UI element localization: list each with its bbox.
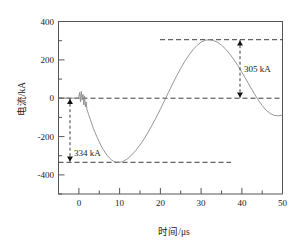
- chart-figure: 400 200 0 -200 -400 0 10 20 30 40 50 334…: [0, 0, 298, 247]
- arrow-up-head-icon: [67, 99, 73, 104]
- x-tick-label: 40: [237, 198, 247, 208]
- chart-canvas: 400 200 0 -200 -400 0 10 20 30 40 50 334…: [0, 0, 298, 247]
- y-axis-title: 电流/kA: [14, 69, 28, 129]
- x-tick-labels: 0 10 20 30 40 50: [77, 198, 288, 208]
- y-tick-label: -200: [38, 132, 55, 142]
- current-waveform-curve: [59, 40, 283, 162]
- peak-measure-label: 305 kA: [244, 64, 271, 74]
- arrow-down-head-icon: [237, 92, 243, 97]
- x-tick-label: 20: [156, 198, 166, 208]
- x-tick-label: 30: [197, 198, 207, 208]
- y-tick-label: 200: [41, 55, 55, 65]
- y-tick-label: -400: [38, 170, 55, 180]
- peak-measure-annotation: 305 kA: [237, 40, 271, 98]
- x-tick-label: 10: [115, 198, 125, 208]
- x-tick-label: 50: [278, 198, 288, 208]
- trough-measure-label: 334 kA: [74, 148, 101, 158]
- arrow-up-head-icon: [237, 41, 243, 46]
- plot-frame: [59, 22, 283, 195]
- y-tick-label: 400: [41, 17, 55, 27]
- trough-measure-annotation: 334 kA: [67, 98, 101, 162]
- x-tick-label: 0: [77, 198, 82, 208]
- y-axis-minor-ticks: [59, 41, 63, 194]
- y-tick-label: 0: [50, 93, 55, 103]
- y-tick-labels: 400 200 0 -200 -400: [38, 17, 55, 180]
- x-axis-title: 时间/μs: [139, 224, 209, 238]
- arrow-down-head-icon: [67, 157, 73, 162]
